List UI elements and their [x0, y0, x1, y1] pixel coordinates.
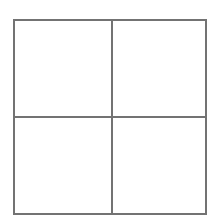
- quadrant-bottom-right: [113, 118, 205, 213]
- quadrant-top-right: [113, 21, 205, 116]
- quadrant-bottom-left: [15, 118, 111, 213]
- grid-divider-horizontal: [15, 116, 205, 118]
- grid-outer-square: [13, 19, 207, 215]
- figure-canvas: [0, 0, 214, 223]
- quadrant-top-left: [15, 21, 111, 116]
